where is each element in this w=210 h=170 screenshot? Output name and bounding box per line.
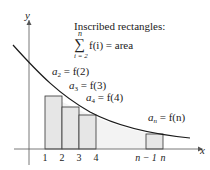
tick-1: 1 bbox=[43, 152, 48, 163]
rect-n bbox=[146, 134, 163, 149]
rect-3 bbox=[62, 107, 79, 149]
y-axis-label: y bbox=[25, 10, 30, 21]
rect-4 bbox=[79, 115, 96, 149]
tick-n-minus-1: n − 1 bbox=[135, 152, 157, 163]
sum-expression: f(i) = area bbox=[89, 40, 133, 51]
tick-2: 2 bbox=[60, 152, 65, 163]
x-axis-label: x bbox=[200, 145, 205, 156]
label-a4: a4 = f(4) bbox=[86, 92, 123, 105]
tick-n: n bbox=[161, 152, 166, 163]
sum-sigma: ∑ bbox=[74, 37, 85, 52]
tick-4: 4 bbox=[94, 152, 99, 163]
title: Inscribed rectangles: bbox=[74, 21, 165, 32]
sum-lower: i = 2 bbox=[74, 53, 88, 60]
label-an: an = f(n) bbox=[148, 112, 185, 125]
tick-3: 3 bbox=[77, 152, 82, 163]
label-a2: a2 = f(2) bbox=[52, 66, 89, 79]
rect-2 bbox=[45, 96, 62, 149]
